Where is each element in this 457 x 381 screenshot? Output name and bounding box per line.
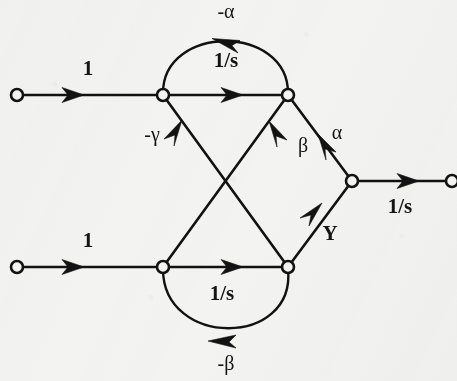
arrowhead-cross-gamma [164, 120, 182, 146]
label-input-bottom-gain: 1 [83, 228, 94, 252]
input-node-bottom[interactable] [11, 261, 23, 273]
label-top-feedback-gain: -α [217, 0, 235, 22]
edge-output [352, 174, 452, 189]
graph-canvas: 1 1/s -α 1 1/s -β -γ β α Y 1/s [0, 0, 457, 381]
edge-y [288, 181, 352, 267]
label-gamma-gain: -γ [144, 123, 160, 146]
label-top-forward-gain: 1/s [214, 48, 239, 72]
node-top-left[interactable] [157, 89, 169, 101]
arrowhead-cross-beta [269, 121, 287, 147]
arrowhead-bottom-feedback [208, 335, 236, 348]
node-right-junction[interactable] [346, 175, 358, 187]
label-output-gain: 1/s [388, 194, 413, 218]
label-y-signal: Y [322, 221, 337, 245]
label-beta-gain: β [298, 134, 308, 157]
output-node[interactable] [446, 175, 457, 187]
edge-bottom-forward [163, 260, 288, 275]
label-bottom-forward-gain: 1/s [210, 281, 235, 305]
input-node-top[interactable] [11, 89, 23, 101]
label-alpha-gain: α [332, 121, 343, 143]
label-bottom-feedback-gain: -β [218, 352, 235, 375]
node-bottom-right[interactable] [282, 261, 294, 273]
node-top-right[interactable] [282, 89, 294, 101]
signal-flow-graph-figure: 1 1/s -α 1 1/s -β -γ β α Y 1/s [0, 0, 457, 381]
node-bottom-left[interactable] [157, 261, 169, 273]
label-input-top-gain: 1 [83, 56, 94, 80]
edge-input-top [24, 88, 163, 103]
edge-top-forward [163, 88, 288, 103]
arrowhead-y [300, 203, 322, 226]
edge-input-bottom [24, 260, 163, 275]
